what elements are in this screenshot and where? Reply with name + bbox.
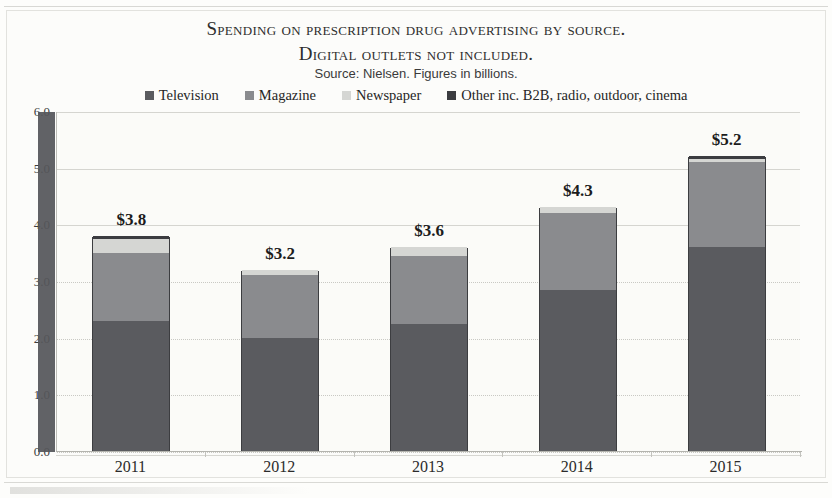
bar-total-label: $4.3 xyxy=(563,181,593,201)
bar-column-2015[interactable]: $5.2 xyxy=(688,157,766,452)
chart-subtitle: Source: Nielsen. Figures in billions. xyxy=(0,66,832,81)
bar-segment-newspaper xyxy=(93,239,169,253)
bar-total-label: $3.8 xyxy=(117,210,147,230)
x-axis-tick-mark xyxy=(651,452,652,457)
chart-title-line-1: Spending on prescription drug advertisin… xyxy=(0,16,832,41)
bar-column-2012[interactable]: $3.2 xyxy=(241,271,319,452)
bar-stack xyxy=(92,237,170,452)
bar-series-container: $3.8$3.2$3.6$4.3$5.2 xyxy=(57,112,800,452)
bar-segment-television xyxy=(93,321,169,451)
bar-segment-magazine xyxy=(93,253,169,321)
chart-title: Spending on prescription drug advertisin… xyxy=(0,16,832,66)
scan-artifact-band xyxy=(38,112,55,452)
x-axis-line xyxy=(56,451,802,452)
legend-item-television[interactable]: Television xyxy=(145,87,219,104)
bar-segment-magazine xyxy=(391,256,467,324)
chart-title-line-2: Digital outlets not included. xyxy=(0,41,832,66)
legend-swatch-icon xyxy=(245,91,254,100)
legend-item-other[interactable]: Other inc. B2B, radio, outdoor, cinema xyxy=(447,87,687,104)
gridline xyxy=(57,452,800,453)
x-axis-line-secondary xyxy=(56,455,802,456)
bar-stack xyxy=(688,157,766,452)
bar-segment-television xyxy=(540,290,616,452)
plot-area: $3.8$3.2$3.6$4.3$5.2 xyxy=(56,112,800,452)
x-axis-tick-label-2011: 2011 xyxy=(80,458,180,476)
legend-label: Magazine xyxy=(259,87,316,104)
legend-swatch-icon xyxy=(447,91,456,100)
bar-total-label: $3.6 xyxy=(414,221,444,241)
x-axis-tick-mark xyxy=(354,452,355,457)
legend-label: Other inc. B2B, radio, outdoor, cinema xyxy=(461,87,687,104)
legend-item-magazine[interactable]: Magazine xyxy=(245,87,316,104)
legend-swatch-icon xyxy=(342,91,351,100)
bar-column-2011[interactable]: $3.8 xyxy=(92,237,170,452)
x-axis-tick-label-2015: 2015 xyxy=(676,458,776,476)
chart-page: Spending on prescription drug advertisin… xyxy=(0,0,832,498)
bar-column-2013[interactable]: $3.6 xyxy=(390,248,468,452)
x-axis-tick-label-2012: 2012 xyxy=(229,458,329,476)
x-axis-tick-label-2013: 2013 xyxy=(378,458,478,476)
bar-column-2014[interactable]: $4.3 xyxy=(539,208,617,452)
page-scan-smudge xyxy=(10,487,310,494)
bar-segment-magazine xyxy=(540,213,616,290)
bar-stack xyxy=(539,208,617,452)
bar-segment-television xyxy=(391,324,467,452)
bar-segment-television xyxy=(689,247,765,451)
bar-stack xyxy=(390,248,468,452)
bar-stack xyxy=(241,271,319,452)
legend-label: Newspaper xyxy=(356,87,421,104)
chart-legend: TelevisionMagazineNewspaperOther inc. B2… xyxy=(0,87,832,104)
x-axis-tick-mark xyxy=(502,452,503,457)
page-edge-top xyxy=(4,6,828,7)
legend-item-newspaper[interactable]: Newspaper xyxy=(342,87,421,104)
bar-segment-newspaper xyxy=(391,247,467,256)
x-axis-tick-label-2014: 2014 xyxy=(527,458,627,476)
bar-segment-television xyxy=(242,338,318,451)
bar-total-label: $3.2 xyxy=(265,244,295,264)
legend-label: Television xyxy=(159,87,219,104)
bar-segment-magazine xyxy=(689,162,765,247)
x-axis-tick-mark xyxy=(205,452,206,457)
bar-total-label: $5.2 xyxy=(712,130,742,150)
page-edge-bottom xyxy=(4,482,828,483)
x-axis-tick-mark xyxy=(800,452,801,457)
bar-segment-magazine xyxy=(242,275,318,337)
legend-swatch-icon xyxy=(145,91,154,100)
